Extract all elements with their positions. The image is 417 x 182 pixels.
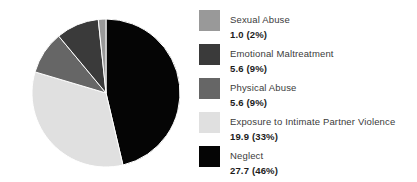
legend-item-neglect[interactable]: Neglect 27.7 (46%) <box>199 145 278 177</box>
legend-label-emotional-maltreatment: Emotional Maltreatment <box>230 48 334 59</box>
legend-item-physical-abuse[interactable]: Physical Abuse 5.6 (9%) <box>199 77 297 109</box>
legend-label-neglect: Neglect <box>230 150 263 161</box>
pie-slices-group <box>0 0 192 182</box>
legend-swatch-sexual-abuse <box>199 10 220 31</box>
legend-swatch-physical-abuse <box>199 78 220 99</box>
legend-text-neglect: Neglect 27.7 (46%) <box>230 145 278 177</box>
legend-value-sexual-abuse: 1.0 (2%) <box>230 28 290 41</box>
legend-value-neglect: 27.7 (46%) <box>230 164 278 177</box>
legend-item-sexual-abuse[interactable]: Sexual Abuse 1.0 (2%) <box>199 9 290 41</box>
legend-label-sexual-abuse: Sexual Abuse <box>230 14 290 25</box>
legend-swatch-emotional-maltreatment <box>199 44 220 65</box>
pie-chart-figure: Sexual Abuse 1.0 (2%) Emotional Maltreat… <box>0 0 417 182</box>
legend-text-sexual-abuse: Sexual Abuse 1.0 (2%) <box>230 9 290 41</box>
legend-label-physical-abuse: Physical Abuse <box>230 82 297 93</box>
legend-swatch-neglect <box>199 146 220 167</box>
legend-text-physical-abuse: Physical Abuse 5.6 (9%) <box>230 77 297 109</box>
legend-item-emotional-maltreatment[interactable]: Emotional Maltreatment 5.6 (9%) <box>199 43 334 75</box>
legend-item-exposure-to-intimate-partner-violence[interactable]: Exposure to Intimate Partner Violence 19… <box>199 111 395 143</box>
pie-chart-plot <box>0 0 192 182</box>
legend-label-exposure-to-intimate-partner-violence: Exposure to Intimate Partner Violence <box>230 116 395 127</box>
chart-legend: Sexual Abuse 1.0 (2%) Emotional Maltreat… <box>199 7 415 179</box>
legend-text-exposure-to-intimate-partner-violence: Exposure to Intimate Partner Violence 19… <box>230 111 395 143</box>
legend-value-exposure-to-intimate-partner-violence: 19.9 (33%) <box>230 130 395 143</box>
legend-text-emotional-maltreatment: Emotional Maltreatment 5.6 (9%) <box>230 43 334 75</box>
legend-value-emotional-maltreatment: 5.6 (9%) <box>230 62 334 75</box>
legend-value-physical-abuse: 5.6 (9%) <box>230 96 297 109</box>
legend-swatch-exposure-to-intimate-partner-violence <box>199 112 220 133</box>
